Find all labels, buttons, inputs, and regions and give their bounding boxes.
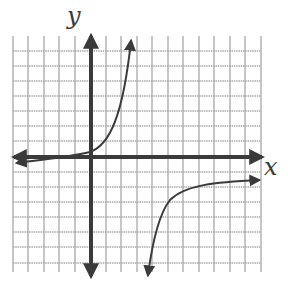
grid	[13, 36, 261, 272]
y-axis-label: y	[67, 4, 81, 28]
curve-right-branch	[148, 180, 259, 275]
curve-left-branch	[17, 41, 131, 163]
coordinate-graph	[0, 0, 288, 288]
x-axis-label: x	[264, 155, 278, 179]
